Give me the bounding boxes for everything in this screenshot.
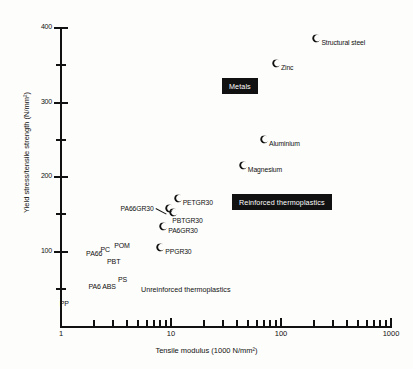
y-axis-title: Yield stress/tensile strength (N/mm²) bbox=[22, 53, 31, 253]
data-point-label: Aluminium bbox=[269, 140, 300, 148]
data-point-label: Magnesium bbox=[248, 166, 282, 174]
x-axis-title: Tensile modulus (1000 N/mm²) bbox=[0, 346, 413, 355]
data-point-label: PA6 bbox=[88, 283, 100, 291]
x-tick-minor bbox=[153, 320, 155, 328]
data-point-label: PP bbox=[60, 300, 69, 308]
x-tick-minor bbox=[275, 320, 277, 328]
x-tick-label: 1 bbox=[59, 330, 63, 338]
x-tick-minor bbox=[236, 320, 238, 328]
data-point-marker bbox=[259, 135, 268, 144]
x-tick-minor bbox=[366, 320, 368, 328]
y-tick-major bbox=[54, 176, 68, 178]
data-point-label: PA66GR30 bbox=[121, 205, 154, 213]
x-tick-major bbox=[280, 318, 282, 328]
data-point-label: PBT bbox=[107, 258, 120, 266]
x-tick-minor bbox=[93, 320, 95, 328]
y-tick-major bbox=[54, 27, 68, 29]
y-tick-minor bbox=[56, 288, 66, 290]
y-tick-label: 100 bbox=[0, 247, 52, 255]
x-tick-minor bbox=[256, 320, 258, 328]
y-tick-major bbox=[54, 102, 68, 104]
x-tick-label: 1000 bbox=[383, 330, 400, 338]
x-tick-minor bbox=[165, 320, 167, 328]
y-tick-label: 300 bbox=[0, 98, 52, 106]
data-point-marker bbox=[156, 243, 165, 252]
x-tick-minor bbox=[222, 320, 224, 328]
x-tick-major bbox=[390, 318, 392, 328]
x-axis-title-text: Tensile modulus (1000 N/mm²) bbox=[155, 346, 257, 355]
x-tick-major bbox=[170, 318, 172, 328]
x-tick-label: 10 bbox=[167, 330, 175, 338]
y-axis-title-text: Yield stress/tensile strength (N/mm²) bbox=[22, 92, 31, 213]
group-label: Reinforced thermoplastics bbox=[232, 194, 332, 210]
y-tick-minor bbox=[56, 213, 66, 215]
x-axis-line bbox=[60, 326, 392, 328]
x-tick-minor bbox=[203, 320, 205, 328]
x-tick-minor bbox=[146, 320, 148, 328]
x-tick-minor bbox=[112, 320, 114, 328]
scatter-chart-figure: Yield stress/tensile strength (N/mm²) Te… bbox=[0, 0, 413, 369]
x-tick-minor bbox=[269, 320, 271, 328]
x-tick-minor bbox=[385, 320, 387, 328]
x-tick-label: 100 bbox=[275, 330, 288, 338]
data-point-label: Structural steel bbox=[321, 39, 365, 47]
x-tick-major bbox=[60, 318, 62, 328]
x-tick-minor bbox=[137, 320, 139, 328]
group-label: Metals bbox=[222, 78, 258, 94]
data-point-label: PA66 bbox=[86, 250, 102, 258]
data-point-marker bbox=[173, 195, 182, 204]
y-tick-minor bbox=[56, 139, 66, 141]
x-tick-minor bbox=[263, 320, 265, 328]
y-tick-label: 200 bbox=[0, 172, 52, 180]
x-tick-minor bbox=[313, 320, 315, 328]
data-point-label: PPGR30 bbox=[165, 248, 191, 256]
data-point-label: POM bbox=[114, 242, 130, 250]
x-tick-minor bbox=[332, 320, 334, 328]
data-point-marker bbox=[312, 35, 321, 44]
data-point-label: ABS bbox=[102, 283, 116, 291]
x-tick-minor bbox=[346, 320, 348, 328]
x-tick-minor bbox=[357, 320, 359, 328]
data-point-marker bbox=[159, 222, 168, 231]
x-tick-minor bbox=[373, 320, 375, 328]
data-point-label: PETGR30 bbox=[183, 199, 213, 207]
group-label: Unreinforced thermoplastics bbox=[141, 285, 230, 294]
x-tick-minor bbox=[126, 320, 128, 328]
x-tick-minor bbox=[379, 320, 381, 328]
data-point-marker bbox=[238, 161, 247, 170]
data-point-label: PS bbox=[118, 276, 127, 284]
y-tick-major bbox=[54, 251, 68, 253]
x-tick-minor bbox=[247, 320, 249, 328]
data-point-label: PA6GR30 bbox=[168, 227, 197, 235]
y-tick-label: 400 bbox=[0, 23, 52, 31]
x-tick-minor bbox=[159, 320, 161, 328]
data-point-label: Zinc bbox=[281, 64, 293, 72]
y-tick-minor bbox=[56, 64, 66, 66]
data-point-marker bbox=[271, 59, 280, 68]
y-axis-line bbox=[60, 28, 62, 328]
data-point-label: PBTGR30 bbox=[172, 217, 202, 225]
